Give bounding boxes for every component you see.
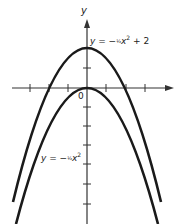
origin-label: 0	[78, 92, 84, 101]
label-prefix: y =	[41, 153, 60, 163]
parabola-graph	[0, 0, 175, 224]
x-axis-arrow-icon	[165, 85, 174, 91]
y-axis	[83, 19, 91, 224]
y-axis-label: y	[81, 6, 87, 16]
y-axis-arrow-icon	[84, 19, 90, 28]
label-coef: −	[109, 36, 117, 46]
label-coef: −	[60, 153, 68, 163]
label-suffix: + 2	[130, 36, 149, 46]
outer-curve-label: y = −½x2 + 2	[90, 35, 149, 46]
inner-curve-label: y = −½x2	[41, 152, 81, 163]
label-exponent: 2	[77, 151, 81, 158]
label-prefix: y =	[90, 36, 109, 46]
